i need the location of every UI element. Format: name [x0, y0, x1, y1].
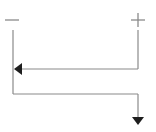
plus-icon — [131, 13, 145, 27]
current-flow-diagram — [0, 0, 156, 132]
arrow-left-icon — [14, 63, 22, 75]
arrow-down-icon — [132, 117, 144, 125]
